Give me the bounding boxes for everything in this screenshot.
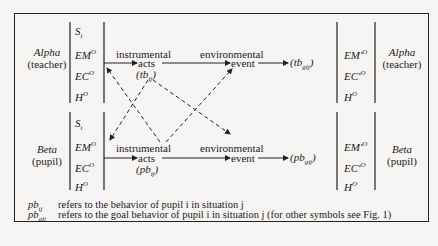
beta-rvar-em: EM'O bbox=[344, 138, 367, 153]
beta-right-role: (pupil) bbox=[377, 155, 427, 167]
alpha-var-h: HO bbox=[75, 88, 88, 103]
beta-var-em: EMO bbox=[75, 138, 96, 153]
alpha-event-label: event bbox=[231, 57, 255, 69]
alpha-right-role: (teacher) bbox=[377, 58, 427, 70]
legend-text-2: refers to the goal behavior of pupil i i… bbox=[58, 209, 391, 220]
beta-outcome-symbol: (pbgij) bbox=[290, 151, 316, 168]
beta-role: (pupil) bbox=[24, 155, 70, 167]
beta-acts-symbol: (pbij) bbox=[136, 163, 158, 180]
beta-var-ec: ECO bbox=[75, 159, 94, 174]
beta-event-label: event bbox=[231, 152, 255, 164]
alpha-var-s: Si bbox=[75, 25, 82, 42]
alpha-rvar-h: HO bbox=[344, 88, 357, 103]
beta-rvar-ec: EC'O bbox=[344, 159, 365, 174]
legend-row-2: pbgijrefers to the goal behavior of pupi… bbox=[28, 209, 391, 225]
alpha-outcome-symbol: (tbgij) bbox=[290, 56, 313, 73]
beta-var-h: HO bbox=[75, 178, 88, 193]
alpha-role: (teacher) bbox=[24, 58, 70, 70]
alpha-var-em: EMO bbox=[75, 46, 96, 61]
beta-var-s: Si bbox=[75, 117, 82, 134]
beta-right-name: Beta bbox=[377, 143, 427, 155]
beta-label: Beta (pupil) bbox=[24, 143, 70, 167]
alpha-right-name: Alpha bbox=[377, 46, 427, 58]
legend-symbol-2: pbgij bbox=[28, 209, 58, 225]
alpha-rvar-ec: EC'O bbox=[344, 67, 365, 82]
beta-right-label: Beta (pupil) bbox=[377, 143, 427, 167]
alpha-name: Alpha bbox=[24, 46, 70, 58]
alpha-label: Alpha (teacher) bbox=[24, 46, 70, 70]
beta-name: Beta bbox=[24, 143, 70, 155]
beta-rvar-h: HO bbox=[344, 178, 357, 193]
alpha-right-label: Alpha (teacher) bbox=[377, 46, 427, 70]
alpha-acts-symbol: (tbij) bbox=[136, 68, 156, 85]
alpha-var-ec: ECO bbox=[75, 67, 94, 82]
alpha-rvar-em: EM'O bbox=[344, 46, 367, 61]
